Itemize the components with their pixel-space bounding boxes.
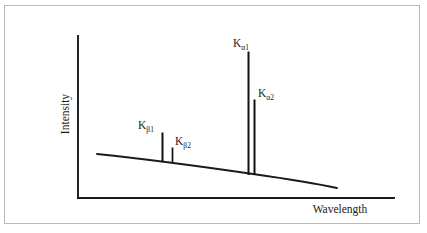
figure-frame: Intensity Wavelength Kβ1 Kβ2 Kα1 Kα2	[4, 5, 420, 224]
label-k-beta-2-subscript: β2	[183, 141, 191, 150]
label-k-alpha-2-subscript: α2	[266, 93, 274, 102]
continuum-curve	[97, 154, 337, 188]
x-axis-label: Wavelength	[313, 203, 368, 216]
label-k-alpha-1: Kα1	[233, 37, 249, 52]
label-k-beta-1-subscript: β1	[146, 125, 154, 134]
label-k-beta-2: Kβ2	[175, 135, 191, 150]
spectrum-plot: Intensity Wavelength Kβ1 Kβ2 Kα1 Kα2	[5, 6, 421, 225]
y-axis-label: Intensity	[59, 94, 72, 134]
label-k-beta-1: Kβ1	[138, 119, 154, 134]
label-k-alpha-1-subscript: α1	[241, 43, 249, 52]
label-k-alpha-2: Kα2	[258, 87, 274, 102]
